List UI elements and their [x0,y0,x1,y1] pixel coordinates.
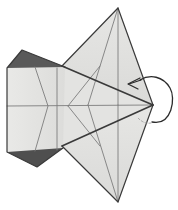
origami-diagram: Origami fold step diagram Kite shaped fo… [0,0,178,210]
arrow-meaning: fold the right point behind / around to … [2,10,178,27]
origami-figure-svg: Origami fold step diagram Kite shaped fo… [0,0,178,210]
